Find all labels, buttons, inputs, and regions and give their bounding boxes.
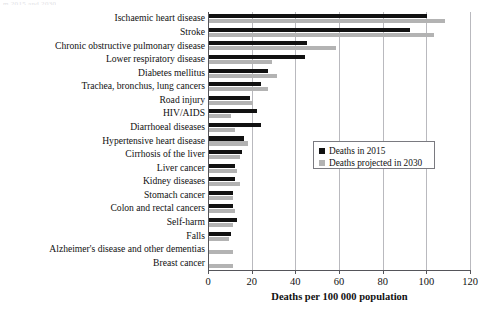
bar-deaths-2030 — [209, 19, 445, 23]
bar-chart-figure: m 2015 and 2030 020406080100120 Ischaemi… — [0, 0, 487, 318]
bar-deaths-2015 — [209, 96, 250, 100]
tick-mark-100 — [426, 270, 427, 274]
gridline-20 — [252, 12, 253, 270]
bar-deaths-2015 — [209, 232, 231, 236]
bar-deaths-2015 — [209, 69, 268, 73]
tick-mark-40 — [295, 270, 296, 274]
bar-deaths-2030 — [209, 264, 233, 268]
category-label: Chronic obstructive pulmonary disease — [55, 40, 205, 51]
category-label: Lower respiratory disease — [106, 53, 205, 64]
category-label: Ischaemic heart disease — [114, 12, 205, 23]
bar-deaths-2030 — [209, 141, 248, 145]
category-label: Stomach cancer — [144, 189, 205, 200]
x-tick-label-120: 120 — [462, 276, 478, 287]
tick-mark-120 — [470, 270, 471, 274]
x-tick-label-80: 80 — [377, 276, 388, 287]
category-label: Falls — [186, 230, 205, 241]
bar-deaths-2015 — [209, 55, 305, 59]
bar-deaths-2030 — [209, 182, 240, 186]
category-label: Breast cancer — [153, 257, 205, 268]
bar-deaths-2015 — [209, 41, 307, 45]
category-label: HIV/AIDS — [163, 107, 205, 118]
category-label: Stroke — [180, 26, 205, 37]
bar-deaths-2030 — [209, 60, 272, 64]
bar-deaths-2030 — [209, 223, 233, 227]
legend-label: Deaths projected in 2030 — [329, 158, 422, 168]
legend-item: Deaths in 2015 — [319, 145, 430, 157]
bar-deaths-2015 — [209, 218, 237, 222]
legend-item: Deaths projected in 2030 — [319, 157, 430, 169]
bar-deaths-2030 — [209, 101, 253, 105]
gridline-40 — [295, 12, 296, 270]
x-axis-title: Deaths per 100 000 population — [208, 291, 471, 302]
bar-deaths-2015 — [209, 191, 233, 195]
x-tick-label-100: 100 — [418, 276, 434, 287]
bar-deaths-2030 — [209, 128, 235, 132]
tick-mark-60 — [339, 270, 340, 274]
legend-swatch-icon — [319, 148, 325, 154]
x-tick-label-40: 40 — [290, 276, 301, 287]
x-tick-label-20: 20 — [246, 276, 257, 287]
bar-deaths-2015 — [209, 136, 244, 140]
category-label: Road injury — [159, 94, 205, 105]
x-tick-label-60: 60 — [334, 276, 345, 287]
bar-deaths-2015 — [209, 109, 257, 113]
category-label: Kidney diseases — [143, 175, 205, 186]
legend-swatch-icon — [319, 160, 325, 166]
bar-deaths-2015 — [209, 150, 242, 154]
bar-deaths-2030 — [209, 250, 233, 254]
category-label: Liver cancer — [157, 162, 205, 173]
bar-deaths-2015 — [209, 177, 235, 181]
bar-deaths-2015 — [209, 28, 410, 32]
bar-deaths-2015 — [209, 204, 233, 208]
tick-mark-0 — [208, 270, 209, 274]
category-label: Alzheimer's disease and other dementias — [49, 243, 205, 254]
bar-deaths-2030 — [209, 169, 237, 173]
bar-deaths-2030 — [209, 196, 233, 200]
chart-legend: Deaths in 2015Deaths projected in 2030 — [313, 141, 435, 169]
bar-deaths-2015 — [209, 82, 261, 86]
bar-deaths-2030 — [209, 33, 434, 37]
bar-deaths-2030 — [209, 237, 229, 241]
bar-deaths-2030 — [209, 46, 336, 50]
bar-deaths-2030 — [209, 74, 277, 78]
category-label: Diabetes mellitus — [138, 67, 205, 78]
category-label: Cirrhosis of the liver — [125, 148, 205, 159]
category-label: Diarrhoeal diseases — [130, 121, 205, 132]
bar-deaths-2030 — [209, 155, 240, 159]
tick-mark-80 — [383, 270, 384, 274]
legend-label: Deaths in 2015 — [329, 146, 385, 156]
x-tick-label-0: 0 — [205, 276, 210, 287]
bar-deaths-2030 — [209, 209, 235, 213]
category-label: Self-harm — [167, 216, 205, 227]
category-label: Trachea, bronchus, lung cancers — [81, 80, 205, 91]
tick-mark-20 — [252, 270, 253, 274]
bar-deaths-2030 — [209, 87, 268, 91]
bar-deaths-2015 — [209, 164, 235, 168]
bar-deaths-2030 — [209, 114, 231, 118]
bar-deaths-2015 — [209, 123, 261, 127]
clipped-caption-text: m 2015 and 2030 — [3, 0, 56, 5]
category-label: Hypertensive heart disease — [102, 135, 205, 146]
category-label: Colon and rectal cancers — [110, 202, 205, 213]
gridline-120 — [470, 12, 471, 270]
bar-deaths-2015 — [209, 14, 427, 18]
